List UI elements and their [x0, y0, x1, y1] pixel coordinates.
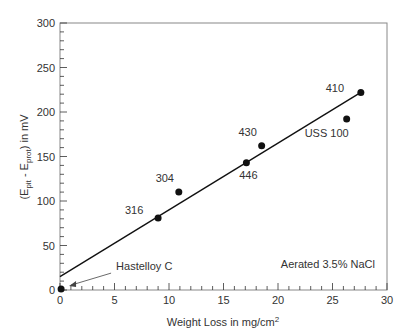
y-tick-label: 200 [37, 106, 55, 118]
annotation-solution: Aerated 3.5% NaCl [281, 258, 375, 270]
plot-frame [60, 23, 387, 290]
data-point [343, 116, 350, 123]
data-point [357, 89, 364, 96]
x-tick-label: 15 [217, 294, 229, 306]
x-tick-label: 30 [381, 294, 393, 306]
y-tick-label: 250 [37, 62, 55, 74]
point-label: USS 100 [305, 127, 349, 139]
y-tick-label: 150 [37, 151, 55, 163]
y-axis-label: (Epit - Eprot) in mV [18, 114, 33, 200]
y-tick-label: 0 [49, 284, 55, 296]
fit-line [60, 92, 361, 276]
point-label: 304 [156, 172, 174, 184]
point-label: 446 [239, 169, 257, 181]
data-point [258, 142, 265, 149]
point-label: 316 [125, 204, 143, 216]
arrow [71, 273, 111, 285]
data-point [155, 214, 162, 221]
x-tick-label: 10 [163, 294, 175, 306]
x-tick-label: 25 [326, 294, 338, 306]
x-tick-label: 5 [111, 294, 117, 306]
arrow-head-icon [69, 281, 76, 287]
data-point [175, 189, 182, 196]
y-tick-label: 50 [43, 240, 55, 252]
x-tick-label: 0 [57, 294, 63, 306]
data-point [243, 159, 250, 166]
y-tick-label: 100 [37, 195, 55, 207]
y-tick-label: 300 [37, 17, 55, 29]
point-label: 430 [238, 126, 256, 138]
x-axis-label: Weight Loss in mg/cm2 [167, 315, 280, 328]
data-point [58, 286, 65, 293]
point-label: Hastelloy C [116, 260, 172, 272]
chart: 051015202530050100150200250300Hastelloy … [0, 0, 406, 336]
x-tick-label: 20 [272, 294, 284, 306]
point-label: 410 [326, 82, 344, 94]
